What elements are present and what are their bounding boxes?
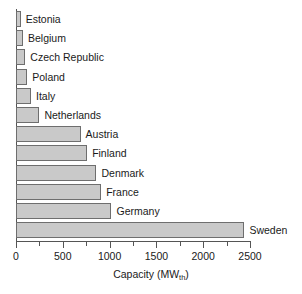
bar-label: Sweden — [249, 222, 287, 238]
bar-row: Germany — [0, 202, 302, 221]
bar-row: Finland — [0, 144, 302, 163]
bar-row: Belgium — [0, 29, 302, 48]
x-tick-minor — [133, 242, 134, 246]
bar-label: Belgium — [28, 30, 66, 46]
x-tick-label: 2000 — [192, 250, 215, 262]
x-tick-label: 1500 — [145, 250, 168, 262]
bar — [16, 88, 31, 104]
bar-series: EstoniaBelgiumCzech RepublicPolandItalyN… — [0, 10, 302, 241]
bar — [16, 203, 111, 219]
bar — [16, 126, 81, 142]
x-tick-major — [156, 242, 157, 248]
bar — [16, 165, 96, 181]
x-tick-major — [250, 242, 251, 248]
bar-row: Poland — [0, 68, 302, 87]
x-tick-major — [16, 242, 17, 248]
x-tick-minor — [180, 242, 181, 246]
bar-row: Sweden — [0, 221, 302, 240]
bar — [16, 184, 101, 200]
x-axis-title-subscript: th — [179, 273, 185, 282]
x-tick-major — [63, 242, 64, 248]
bar — [16, 30, 23, 46]
bar-label: Czech Republic — [30, 49, 104, 65]
bar-row: Austria — [0, 125, 302, 144]
x-tick-label: 2500 — [238, 250, 261, 262]
bar-label: Italy — [36, 88, 55, 104]
bar — [16, 69, 27, 85]
x-axis-title-base: Capacity (MW — [113, 268, 179, 280]
bar-row: Estonia — [0, 10, 302, 29]
x-tick-major — [110, 242, 111, 248]
x-tick-major — [203, 242, 204, 248]
x-axis-title: Capacity (MWth) — [0, 268, 302, 280]
bar-row: France — [0, 183, 302, 202]
bar-row: Italy — [0, 87, 302, 106]
bar-row: Netherlands — [0, 106, 302, 125]
bar — [16, 107, 39, 123]
bar-label: Austria — [86, 126, 119, 142]
bar-label: Finland — [92, 145, 126, 161]
plot-area: EstoniaBelgiumCzech RepublicPolandItalyN… — [0, 0, 302, 250]
x-tick-minor — [86, 242, 87, 246]
x-tick-label: 500 — [54, 250, 72, 262]
bar-label: Poland — [32, 69, 65, 85]
bar-row: Denmark — [0, 164, 302, 183]
x-tick-label: 0 — [13, 250, 19, 262]
bar-label: France — [106, 184, 139, 200]
x-axis-title-tail: ) — [185, 268, 189, 280]
bar — [16, 11, 21, 27]
bar — [16, 49, 25, 65]
x-tick-minor — [227, 242, 228, 246]
bar-label: Germany — [116, 203, 159, 219]
bar-row: Czech Republic — [0, 48, 302, 67]
bar — [16, 145, 87, 161]
bar-chart: EstoniaBelgiumCzech RepublicPolandItalyN… — [0, 0, 302, 294]
x-tick-label: 1000 — [98, 250, 121, 262]
bar — [16, 222, 244, 238]
bar-label: Netherlands — [44, 107, 101, 123]
x-tick-minor — [39, 242, 40, 246]
bar-label: Estonia — [26, 11, 61, 27]
bar-label: Denmark — [101, 165, 144, 181]
